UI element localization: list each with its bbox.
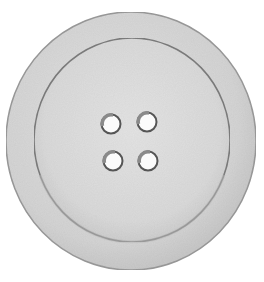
hole-top-right: [138, 113, 157, 132]
hole-top-left: [102, 115, 121, 134]
hole-bottom-left: [104, 152, 123, 171]
button-illustration: Grayscale pencil-style illustration of a…: [0, 0, 264, 282]
hole-bottom-right: [139, 152, 158, 171]
